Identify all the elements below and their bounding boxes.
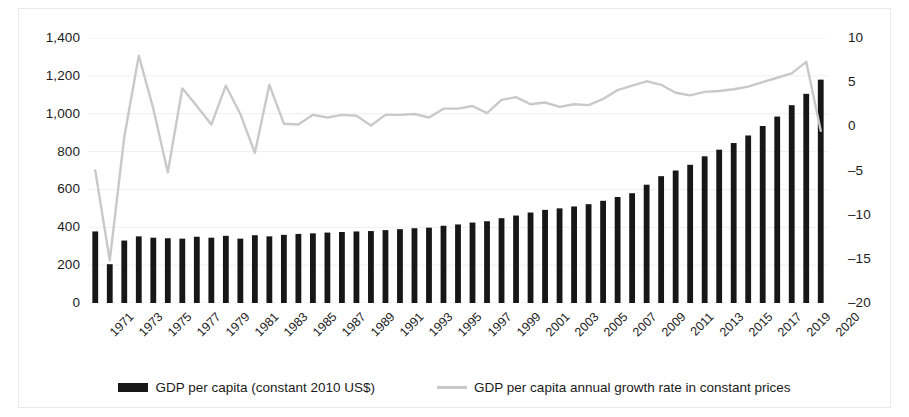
bar-2008: [629, 193, 635, 303]
bar-2013: [702, 156, 708, 303]
bar-1979: [208, 238, 214, 303]
bar-1983: [266, 236, 272, 303]
bar-1990: [368, 231, 374, 303]
left-axis-tick-400: 400: [57, 221, 80, 235]
legend-line-swatch-icon: [437, 386, 467, 389]
x-axis-label-1981: 1981: [253, 310, 282, 339]
bar-2006: [600, 201, 606, 303]
legend-item-gdp-per-capita[interactable]: GDP per capita (constant 2010 US$): [118, 380, 375, 395]
bar-1971: [92, 231, 98, 303]
x-axis-label-1983: 1983: [282, 310, 311, 339]
x-axis-label-1979: 1979: [224, 310, 253, 339]
x-axis-label-1973: 1973: [137, 310, 166, 339]
x-axis-label-2005: 2005: [601, 310, 630, 339]
bar-1976: [165, 238, 171, 303]
right-axis-tick--15: –15: [836, 252, 871, 266]
bar-2010: [658, 176, 664, 303]
left-axis-tick-600: 600: [57, 183, 80, 197]
left-axis-tick-800: 800: [57, 145, 80, 159]
bar-1978: [194, 237, 200, 303]
x-axis-label-2007: 2007: [630, 310, 659, 339]
legend-bar-swatch-icon: [118, 383, 148, 392]
left-y-axis: 02004006008001,0001,2001,400: [18, 38, 80, 303]
x-axis-label-1993: 1993: [427, 310, 456, 339]
right-axis-tick-5: 5: [836, 75, 856, 89]
bar-1997: [470, 223, 476, 303]
bar-2015: [731, 143, 737, 303]
bar-2002: [542, 210, 548, 303]
bar-2004: [571, 206, 577, 303]
x-axis-label-2011: 2011: [688, 310, 716, 338]
x-axis-label-1971: 1971: [108, 310, 137, 339]
right-axis-tick--10: –10: [836, 208, 871, 222]
bar-2017: [760, 126, 766, 303]
bar-1993: [412, 228, 418, 303]
bar-1977: [179, 239, 185, 303]
x-axis-label-1975: 1975: [166, 310, 195, 339]
bar-2020: [803, 94, 809, 303]
bar-2009: [644, 185, 650, 303]
bar-2021: [818, 80, 824, 303]
x-axis-label-1987: 1987: [340, 310, 369, 339]
bar-2018: [774, 117, 780, 303]
bar-1987: [325, 233, 331, 303]
right-y-axis: –20–15–10–50510: [836, 38, 888, 303]
x-axis-label-2009: 2009: [659, 310, 688, 339]
legend-label: GDP per capita (constant 2010 US$): [155, 380, 375, 395]
chart-legend: GDP per capita (constant 2010 US$)GDP pe…: [18, 375, 891, 399]
right-axis-tick--20: –20: [836, 296, 871, 310]
bar-1998: [484, 221, 490, 303]
x-axis-label-1985: 1985: [311, 310, 340, 339]
plot-area: [88, 38, 828, 303]
right-axis-tick-10: 10: [836, 31, 863, 45]
x-axis-label-1995: 1995: [456, 310, 485, 339]
chart-container: 02004006008001,0001,2001,400 –20–15–10–5…: [0, 0, 909, 417]
x-axis-label-1997: 1997: [485, 310, 514, 339]
bar-1981: [237, 239, 243, 303]
x-axis-label-1991: 1991: [398, 310, 427, 339]
bar-2016: [745, 135, 751, 303]
bar-1991: [383, 230, 389, 303]
bar-2007: [615, 197, 621, 303]
bar-1984: [281, 235, 287, 303]
plot-svg: [88, 38, 828, 303]
bar-1992: [397, 229, 403, 303]
left-axis-tick-200: 200: [57, 258, 80, 272]
bar-1973: [121, 241, 127, 303]
left-axis-tick-1000: 1,000: [46, 107, 80, 121]
bar-1994: [426, 228, 432, 303]
bar-2001: [528, 213, 534, 303]
bar-1995: [441, 226, 447, 303]
bar-2014: [716, 150, 722, 303]
x-axis-label-2001: 2001: [543, 310, 572, 339]
x-axis-label-2003: 2003: [572, 310, 601, 339]
bar-1980: [223, 236, 229, 303]
bar-1985: [295, 234, 301, 303]
bar-1996: [455, 224, 461, 303]
bar-2012: [687, 165, 693, 303]
x-axis: 1971197319751977197919811983198519871989…: [88, 305, 828, 367]
bar-1972: [107, 264, 113, 303]
bar-1982: [252, 235, 258, 303]
left-axis-tick-1400: 1,400: [46, 31, 80, 45]
x-axis-label-2017: 2017: [775, 310, 804, 339]
bar-1986: [310, 233, 316, 303]
bar-1989: [354, 231, 360, 303]
bar-2019: [789, 105, 795, 303]
x-axis-label-1977: 1977: [195, 310, 224, 339]
x-axis-label-1999: 1999: [514, 310, 543, 339]
bar-1974: [136, 236, 142, 303]
bar-2011: [673, 171, 679, 304]
bar-series: [92, 65, 828, 303]
right-axis-tick-0: 0: [836, 120, 856, 134]
legend-label: GDP per capita annual growth rate in con…: [474, 380, 790, 395]
x-axis-label-2015: 2015: [746, 310, 775, 339]
bar-1999: [499, 218, 505, 303]
right-axis-tick--5: –5: [836, 164, 863, 178]
bar-2000: [513, 216, 519, 303]
bar-1988: [339, 232, 345, 303]
x-axis-label-2013: 2013: [717, 310, 746, 339]
legend-item-growth-rate[interactable]: GDP per capita annual growth rate in con…: [437, 380, 790, 395]
bar-2003: [557, 208, 563, 303]
bar-2005: [586, 204, 592, 303]
